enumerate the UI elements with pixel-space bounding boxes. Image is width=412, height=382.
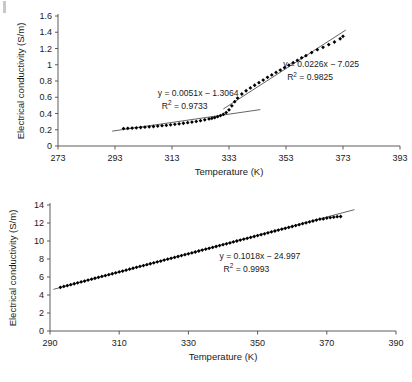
data-point	[341, 34, 345, 38]
data-point	[126, 126, 130, 130]
data-point	[138, 265, 142, 269]
data-point	[253, 83, 257, 87]
x-tick-label: 273	[50, 153, 65, 163]
data-point	[266, 231, 270, 235]
x-axis-title: Temperature (K)	[195, 166, 264, 177]
data-point	[110, 272, 114, 276]
y-tick-label: 1.2	[39, 44, 52, 54]
y-tick-label: 10	[34, 236, 44, 246]
r-squared-label-high-temperature-fit: R2 = 0.9825	[287, 71, 333, 82]
x-tick-label: 330	[181, 338, 196, 348]
y-tick-label: 0	[39, 326, 44, 336]
data-point	[193, 250, 197, 254]
y-axis-title: Electrical conductivity (S/m)	[7, 210, 18, 327]
equation-label-linear-fit: y = 0.1018x − 24.997	[220, 251, 301, 261]
data-point	[261, 78, 265, 82]
r-squared-label-linear-fit: R2 = 0.9993	[224, 262, 270, 273]
data-point	[103, 274, 107, 278]
data-point	[152, 261, 156, 265]
data-point	[266, 75, 270, 79]
trendline-high-temperature-fit	[223, 30, 346, 109]
data-point	[304, 221, 308, 225]
data-point	[86, 278, 90, 282]
data-point	[244, 89, 248, 93]
data-point	[166, 257, 170, 261]
data-point	[190, 251, 194, 255]
chart-panel-top: 00.20.40.60.811.21.41.627329331333335337…	[0, 0, 412, 191]
data-point	[257, 81, 261, 85]
data-point	[177, 122, 181, 126]
equation-label-low-temperature-fit: y = 0.0051x − 1.3064	[158, 88, 239, 98]
data-point	[145, 263, 149, 267]
data-point	[327, 43, 331, 47]
x-tick-label: 373	[335, 153, 350, 163]
data-point	[114, 271, 118, 275]
y-tick-label: 14	[34, 200, 44, 210]
equation-label-high-temperature-fit: y = 0.0226x − 7.025	[283, 59, 359, 69]
data-point	[183, 253, 187, 257]
data-point	[130, 126, 134, 130]
data-point	[218, 244, 222, 248]
x-tick-label: 313	[164, 153, 179, 163]
data-point	[231, 240, 235, 244]
y-tick-label: 1.6	[39, 11, 52, 21]
data-point	[249, 236, 253, 240]
data-point	[159, 259, 163, 263]
data-point	[162, 258, 166, 262]
data-point	[290, 225, 294, 229]
data-point	[187, 252, 191, 256]
y-tick-label: 0.2	[39, 125, 52, 135]
data-point	[311, 219, 315, 223]
data-point	[135, 265, 139, 269]
data-point	[93, 276, 97, 280]
data-point	[318, 217, 322, 221]
x-tick-label: 290	[42, 338, 57, 348]
r-squared-value: = 0.9825	[297, 72, 333, 82]
data-point	[100, 275, 104, 279]
x-tick-label: 390	[388, 338, 403, 348]
data-point	[252, 235, 256, 239]
data-point	[76, 281, 80, 285]
data-point	[248, 86, 252, 90]
y-axis-title: Electrical conductivity (S/m)	[15, 23, 26, 140]
x-tick-label: 350	[250, 338, 265, 348]
data-point	[301, 222, 305, 226]
y-tick-label: 2	[39, 308, 44, 318]
data-point	[238, 238, 242, 242]
data-point	[280, 227, 284, 231]
data-point	[276, 228, 280, 232]
data-point	[199, 119, 203, 123]
data-point	[315, 48, 319, 52]
data-point	[245, 236, 249, 240]
x-tick-label: 370	[319, 338, 334, 348]
data-point	[62, 285, 66, 289]
data-point	[203, 118, 207, 122]
data-point	[134, 126, 138, 130]
data-point	[72, 282, 76, 286]
data-point	[58, 285, 62, 289]
data-point	[256, 234, 260, 238]
x-axis-title: Temperature (K)	[189, 351, 258, 362]
data-point	[186, 121, 190, 125]
data-point	[194, 119, 198, 123]
data-point	[240, 92, 244, 96]
data-point	[83, 279, 87, 283]
data-point	[259, 233, 263, 237]
data-point	[117, 270, 121, 274]
data-point	[182, 121, 186, 125]
x-tick-label: 393	[392, 153, 407, 163]
y-tick-label: 8	[39, 254, 44, 264]
data-point	[270, 73, 274, 77]
data-point	[124, 268, 128, 272]
r-squared-value: = 0.9993	[233, 264, 269, 274]
data-point	[339, 215, 343, 219]
trendline-low-temperature-fit	[112, 110, 260, 132]
data-point	[173, 255, 177, 259]
scatter-chart-bottom: 02468101214290310330350370390Temperature…	[0, 191, 412, 382]
data-point	[164, 123, 168, 127]
data-point	[79, 280, 83, 284]
data-point	[308, 220, 312, 224]
data-point	[263, 232, 267, 236]
data-series-electrical-conductivity	[122, 34, 345, 130]
data-point	[242, 237, 246, 241]
